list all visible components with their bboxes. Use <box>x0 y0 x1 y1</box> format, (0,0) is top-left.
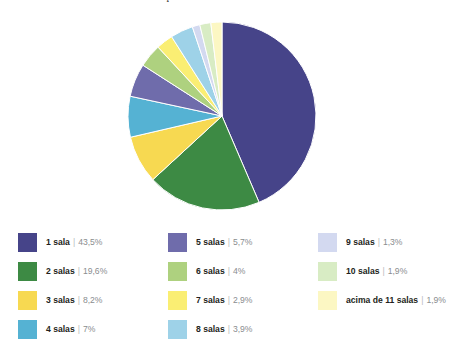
pie-chart <box>0 0 462 222</box>
legend-item-value: 7% <box>83 324 95 334</box>
legend-separator: | <box>378 237 380 247</box>
legend-item-value: 43,5% <box>78 237 102 247</box>
legend-text: 3 salas|8,2% <box>46 296 103 305</box>
legend-item-value: 3,9% <box>233 324 253 334</box>
legend-column: 1 sala|43,5%2 salas|19,6%3 salas|8,2%4 s… <box>0 228 150 360</box>
legend-column: 9 salas|1,3%10 salas|1,9%acima de 11 sal… <box>300 228 452 360</box>
legend-separator: | <box>228 237 230 247</box>
legend-item[interactable]: 8 salas|3,9% <box>168 315 300 344</box>
legend-item-value: 1,3% <box>383 237 403 247</box>
legend-text: acima de 11 salas|1,9% <box>346 296 446 305</box>
legend-separator: | <box>228 266 230 276</box>
legend-separator: | <box>78 295 80 305</box>
legend-separator: | <box>78 324 80 334</box>
legend-item-label: 4 salas <box>46 324 75 334</box>
legend-text: 1 sala|43,5% <box>46 238 103 247</box>
legend-swatch <box>18 262 37 281</box>
legend-item-value: 2,9% <box>233 295 253 305</box>
legend-item-label: 6 salas <box>196 266 225 276</box>
legend-swatch <box>318 233 337 252</box>
legend-item-label: 2 salas <box>46 266 75 276</box>
legend-item-label: 3 salas <box>46 295 75 305</box>
legend-item[interactable]: 5 salas|5,7% <box>168 228 300 257</box>
legend-swatch <box>18 291 37 310</box>
legend-item[interactable]: 2 salas|19,6% <box>18 257 150 286</box>
legend-item-label: 1 sala <box>46 237 70 247</box>
pie-chart-svg <box>0 0 462 222</box>
legend-text: 4 salas|7% <box>46 325 95 334</box>
legend-swatch <box>318 262 337 281</box>
legend-text: 5 salas|5,7% <box>196 238 253 247</box>
legend-item-label: 10 salas <box>346 266 379 276</box>
legend-swatch <box>168 320 187 339</box>
legend-item-value: 19,6% <box>83 266 107 276</box>
legend-item-label: 9 salas <box>346 237 375 247</box>
legend-item-label: 7 salas <box>196 295 225 305</box>
legend-item[interactable]: 9 salas|1,3% <box>318 228 452 257</box>
legend-item[interactable]: 6 salas|4% <box>168 257 300 286</box>
legend-swatch <box>18 320 37 339</box>
legend-separator: | <box>78 266 80 276</box>
legend-text: 10 salas|1,9% <box>346 267 407 276</box>
legend-separator: | <box>382 266 384 276</box>
legend-item-value: 1,9% <box>426 295 446 305</box>
legend-swatch <box>168 233 187 252</box>
legend-item-label: acima de 11 salas <box>346 295 418 305</box>
legend-item[interactable]: acima de 11 salas|1,9% <box>318 286 452 315</box>
legend-item[interactable]: 10 salas|1,9% <box>318 257 452 286</box>
legend-item[interactable]: 1 sala|43,5% <box>18 228 150 257</box>
chart-legend: 1 sala|43,5%2 salas|19,6%3 salas|8,2%4 s… <box>0 228 462 360</box>
legend-swatch <box>318 291 337 310</box>
legend-item[interactable]: 4 salas|7% <box>18 315 150 344</box>
legend-text: 7 salas|2,9% <box>196 296 253 305</box>
legend-separator: | <box>228 324 230 334</box>
legend-text: 8 salas|3,9% <box>196 325 253 334</box>
legend-item[interactable]: 3 salas|8,2% <box>18 286 150 315</box>
legend-item-value: 5,7% <box>233 237 253 247</box>
legend-item-label: 8 salas <box>196 324 225 334</box>
legend-text: 9 salas|1,3% <box>346 238 403 247</box>
legend-swatch <box>168 262 187 281</box>
legend-item-value: 1,9% <box>388 266 408 276</box>
legend-item-value: 8,2% <box>83 295 103 305</box>
legend-text: 2 salas|19,6% <box>46 267 107 276</box>
legend-separator: | <box>421 295 423 305</box>
legend-item-value: 4% <box>233 266 245 276</box>
legend-separator: | <box>228 295 230 305</box>
legend-column: 5 salas|5,7%6 salas|4%7 salas|2,9%8 sala… <box>150 228 300 360</box>
legend-text: 6 salas|4% <box>196 267 245 276</box>
legend-swatch <box>18 233 37 252</box>
legend-item-label: 5 salas <box>196 237 225 247</box>
legend-separator: | <box>73 237 75 247</box>
legend-item[interactable]: 7 salas|2,9% <box>168 286 300 315</box>
legend-swatch <box>168 291 187 310</box>
